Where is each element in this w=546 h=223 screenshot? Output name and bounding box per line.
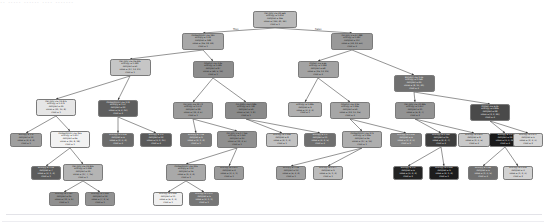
tree-edge: [186, 181, 204, 192]
tree-split-node[interactable]: Protein <= 6.65entropy = 1.284samples = …: [298, 61, 339, 78]
tree-split-node[interactable]: AST(U/L) <= 42.669entropy = 1.414samples…: [253, 11, 297, 28]
tree-split-node[interactable]: Bilirubin <= 1.05entropy = 1.169samples …: [394, 75, 435, 92]
node-class: class = 1: [65, 177, 102, 180]
node-class: class = 3: [104, 143, 133, 146]
node-class: class = 2: [392, 143, 421, 146]
tree-edge: [193, 78, 213, 102]
tree-edge: [229, 148, 237, 166]
tree-edge: [56, 76, 130, 99]
tree-split-node[interactable]: ALT(U/L) <= 22.72entropy = 1.073samples …: [173, 102, 213, 119]
footer-divider: [6, 214, 542, 215]
node-class: class = 3: [332, 115, 369, 118]
tree-edge: [350, 119, 362, 131]
tree-leaf-node[interactable]: entropy = 1.485samples = 9value = [3, 3,…: [288, 102, 322, 117]
node-class: class = 3: [427, 143, 456, 146]
tree-leaf-node[interactable]: entropy = 0.977samples = 9value = [5, 1,…: [313, 166, 343, 180]
node-class: class = 3: [299, 74, 337, 77]
tree-edge: [70, 148, 83, 164]
node-class: class = 1: [315, 176, 342, 179]
tree-leaf-node[interactable]: entropy = 0.918samples = 6value = [2, 4,…: [390, 133, 422, 147]
tree-leaf-node[interactable]: entropy = 0.994samples = 9value = [4, 1,…: [429, 166, 459, 180]
tree-split-node[interactable]: Platelets(U/L) <= 180entropy = 1.22sampl…: [182, 33, 224, 50]
edge-label-true: True: [233, 28, 239, 31]
node-class: class = 1: [278, 176, 305, 179]
tree-edge: [305, 78, 318, 102]
tree-leaf-node[interactable]: entropy = 1.235samples = 8value = [4, 1,…: [266, 133, 298, 147]
tree-leaf-node[interactable]: entropy = 1.0samples = 12value = [0, 2, …: [140, 133, 172, 147]
tree-split-node[interactable]: AST(U/L) <= 31.845entropy = 1.407samples…: [395, 102, 435, 119]
tree-leaf-node[interactable]: entropy = 0.918samples = 3value = [1, 2,…: [503, 166, 533, 180]
node-class: class = 1: [191, 202, 218, 205]
tree-edge: [414, 92, 415, 102]
tree-leaf-node[interactable]: entropy = 1.5samples = 12value = [4, 4, …: [10, 133, 42, 147]
tree-split-node[interactable]: A/G Ratio <= 0.985entropy = 0.738samples…: [225, 102, 267, 119]
tree-edge: [441, 147, 444, 166]
tree-leaf-node[interactable]: entropy = 1.26samples = 13value = [6, 3,…: [276, 166, 306, 180]
tree-split-node[interactable]: Albumin <= 3.95entropy = 1.246samples = …: [330, 102, 370, 119]
tree-split-node[interactable]: Platelets(U/L) <= 178entropy = 1.07sampl…: [98, 100, 138, 117]
node-class: class = 1: [155, 202, 182, 205]
node-class: class = 2: [515, 143, 542, 146]
tree-edge: [83, 181, 100, 192]
tree-edge: [246, 119, 320, 133]
node-class: class = 1: [255, 24, 296, 27]
tree-figure-canvas: ·· ····· ······ ···· ······· AST(U/L) <=…: [0, 0, 546, 223]
tree-split-node[interactable]: AST(U/L) <= 26.435entropy = 1.381samples…: [110, 59, 151, 76]
node-class: class = 3: [100, 113, 137, 116]
tree-leaf-node[interactable]: entropy = 0.811samples = 4value = [3, 0,…: [214, 166, 244, 180]
edge-label-false: False: [315, 28, 322, 31]
node-class: class = 3: [460, 143, 489, 146]
tree-edge: [186, 148, 237, 164]
tree-edge: [490, 121, 528, 133]
tree-edge: [193, 119, 196, 133]
tree-edge: [483, 147, 505, 166]
tree-edge: [328, 148, 362, 166]
tree-split-node[interactable]: Platelets(U/L) <= 255entropy = 1.417samp…: [50, 131, 90, 148]
tree-edge: [505, 147, 518, 166]
node-class: class = 1: [184, 46, 223, 49]
tree-edge: [415, 119, 474, 133]
tree-leaf-node[interactable]: entropy = 1.1samples = 11value = [4, 2, …: [304, 133, 336, 147]
tree-edge: [56, 116, 70, 131]
tree-leaf-node[interactable]: entropy = 0.65samples = 6value = [1, 0, …: [468, 166, 498, 180]
node-class: class = 1: [344, 144, 381, 147]
tree-edge: [118, 76, 130, 100]
tree-edge: [318, 78, 350, 102]
tree-leaf-node[interactable]: entropy = 1.05samples = 7value = [3, 1, …: [31, 166, 61, 180]
tree-leaf-node[interactable]: entropy = 0.971samples = 5value = [2, 3,…: [513, 133, 543, 147]
tree-split-node[interactable]: Platelets(U/L) <= 236entropy = 1.27sampl…: [166, 164, 206, 181]
tree-edge: [213, 78, 246, 102]
node-class: class = 2: [505, 176, 532, 179]
tree-split-node[interactable]: ALT(U/L) <= 17.155entropy = 1.351samples…: [217, 131, 257, 148]
tree-leaf-node[interactable]: entropy = 0.918samples = 6value = [2, 0,…: [102, 133, 134, 147]
tree-split-node[interactable]: Platelets(U/L) <= 279entropy = 1.226samp…: [342, 131, 382, 148]
node-class: class = 1: [268, 143, 297, 146]
node-class: class = 3: [142, 143, 171, 146]
tree-leaf-node[interactable]: entropy = 0.811samples = 8value = [2, 0,…: [458, 133, 490, 147]
tree-leaf-node[interactable]: entropy = 1.187samples = 25value = [11, …: [49, 192, 79, 206]
node-class: class = 1: [431, 176, 458, 179]
tree-split-node[interactable]: AST(U/L) <= 23.805entropy = 1.398samples…: [63, 164, 103, 181]
tree-edge: [408, 147, 441, 166]
tree-split-node[interactable]: Albumin <= 3.45entropy = 1.089samples = …: [193, 61, 234, 78]
tree-split-node[interactable]: Protein <= 6.05entropy = 0.845samples = …: [470, 104, 510, 121]
tree-leaf-node[interactable]: entropy = 1.399samples = 14value = [7, 2…: [85, 192, 115, 206]
tree-split-node[interactable]: AST(U/L) <= 19.875entropy = 1.379samples…: [36, 99, 76, 116]
tree-leaf-node[interactable]: entropy = 1.06samples = 9value = [4, 1, …: [180, 133, 212, 147]
node-class: class = 1: [290, 112, 321, 115]
node-class: class = 3: [395, 88, 433, 91]
node-class: class = 2: [397, 115, 434, 118]
node-class: class = 2: [395, 176, 422, 179]
node-class: class = 1: [87, 202, 114, 205]
node-class: class = 1: [12, 143, 41, 146]
node-class: class = 3: [472, 117, 509, 120]
tree-edge: [168, 181, 186, 192]
tree-leaf-node[interactable]: entropy = 0.994samples = 11value = [6, 2…: [153, 192, 183, 206]
node-class: class = 3: [333, 46, 372, 49]
tree-leaf-node[interactable]: entropy = 1.149samples = 15value = [4, 4…: [425, 133, 457, 147]
tree-leaf-node[interactable]: entropy = 1.371samples = 5value = [3, 1,…: [189, 192, 219, 206]
tree-split-node[interactable]: ALT(U/L) <= 47.288entropy = 1.387samples…: [331, 33, 373, 50]
tree-leaf-node[interactable]: entropy = 1.0samples = 6value = [0, 3, 3…: [393, 166, 423, 180]
node-class: class = 1: [51, 202, 78, 205]
tree-edge: [490, 121, 505, 133]
